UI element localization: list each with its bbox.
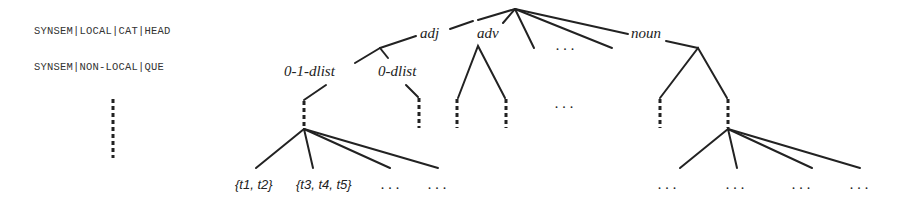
type-0-1-dlist: 0-1-dlist xyxy=(284,63,336,79)
noun-children-edges xyxy=(660,48,727,98)
01dlist-children-edges xyxy=(256,129,438,168)
leaf-t3-t4-t5: {t3, t4, t5} xyxy=(296,177,352,192)
adj-edge xyxy=(380,36,416,48)
level1-ellipsis: . . . xyxy=(556,37,575,53)
01dlist-edge xyxy=(304,85,326,100)
leaf-right-ellipsis-2: . . . xyxy=(726,176,745,192)
leaf-right-ellipsis-4: . . . xyxy=(850,176,869,192)
level2-ellipsis: . . . xyxy=(555,95,574,111)
0dlist-edge xyxy=(406,85,418,97)
leaf-ellipsis-a: . . . xyxy=(381,176,400,192)
leaf-right-ellipsis-3: . . . xyxy=(792,176,811,192)
type-adj: adj xyxy=(420,25,439,41)
type-noun: noun xyxy=(631,25,661,41)
noun-edge xyxy=(666,41,698,48)
adj-to-01dlist xyxy=(355,48,380,63)
leaf-t1-t2: {t1, t2} xyxy=(235,177,273,192)
leaf-ellipsis-b: . . . xyxy=(428,176,447,192)
adj-to-0dlist xyxy=(380,48,388,58)
leaf-right-ellipsis-1: . . . xyxy=(658,176,677,192)
type-adv: adv xyxy=(477,25,499,41)
adv-children-edges xyxy=(458,46,505,98)
noun-right-children-edges xyxy=(680,129,860,168)
type-hierarchy-diagram: adj adv . . . noun 0-1-dlist 0-dlist . .… xyxy=(0,0,918,200)
type-0-dlist: 0-dlist xyxy=(378,63,417,79)
